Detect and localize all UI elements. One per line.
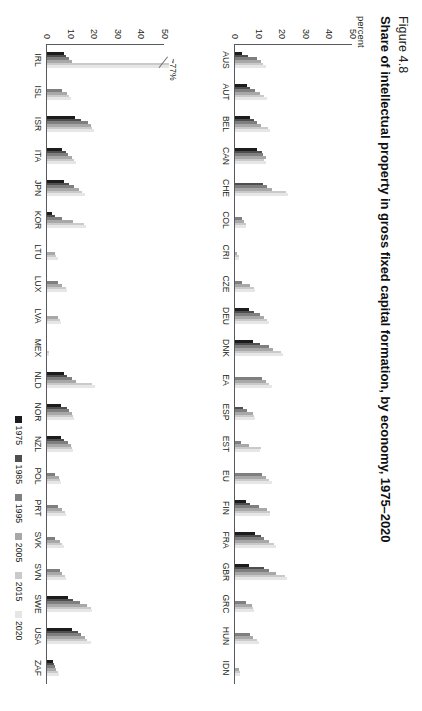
bar-group (235, 204, 353, 236)
bar-2020 (47, 225, 86, 228)
bar-2020 (235, 161, 266, 164)
bar-group (47, 140, 165, 172)
y-axis-tick-label: 20 (89, 17, 99, 39)
bar-2020 (235, 353, 283, 356)
bar-2020 (235, 609, 254, 612)
x-axis-category-label: CAN (221, 140, 231, 172)
x-axis-category-label: SWE (33, 588, 43, 620)
legend-item: 2020 (14, 611, 24, 640)
bar-group (235, 588, 353, 620)
plot-area: 01020304050 (46, 44, 164, 684)
bar-2020 (235, 545, 276, 548)
bar-group (235, 364, 353, 396)
legend-swatch-2015 (16, 572, 23, 579)
x-axis-category-label: EA (221, 364, 231, 396)
bar-2020 (235, 289, 255, 292)
x-axis-category-label: NZL (33, 428, 43, 460)
legend-label: 1975 (14, 426, 24, 446)
legend-swatch-1995 (16, 494, 23, 501)
x-axis-category-label: CZE (221, 268, 231, 300)
x-axis-category-label: HUN (221, 620, 231, 652)
bar-group (235, 268, 353, 300)
y-axis-tick-label: 30 (113, 17, 123, 39)
bar-group (47, 492, 165, 524)
y-axis-tick-label: 10 (254, 17, 264, 39)
x-axis-category-label: PRT (33, 492, 43, 524)
bar-2020 (235, 673, 240, 676)
bar-2020 (47, 161, 77, 164)
x-axis-category-label: CRI (221, 236, 231, 268)
bar-2020 (235, 385, 272, 388)
legend-label: 2005 (14, 543, 24, 563)
bar-2020 (235, 193, 288, 196)
bar-2020 (47, 577, 66, 580)
bar-2020 (47, 129, 94, 132)
x-axis-category-label: GBR (221, 556, 231, 588)
x-axis-category-label: USA (33, 620, 43, 652)
bar-group (47, 332, 165, 364)
x-axis-category-label: COL (221, 204, 231, 236)
bar-2020 (47, 65, 169, 68)
bar-group (47, 524, 165, 556)
bar-2020 (235, 97, 267, 100)
bar-2020 (47, 417, 74, 420)
legend-swatch-1985 (16, 455, 23, 462)
bar-group (235, 652, 353, 684)
y-axis-tick-label: 10 (66, 17, 76, 39)
bar-group (47, 236, 165, 268)
bar-group (47, 364, 165, 396)
panel-bottom: 01020304050IRLISLISRITAJPNKORLTULUXLVAME… (30, 44, 164, 684)
legend-item: 1975 (14, 416, 24, 445)
y-axis-tick-label: 30 (301, 17, 311, 39)
bar-2020 (235, 65, 266, 68)
bar-2020 (235, 321, 269, 324)
bar-2020 (235, 225, 246, 228)
x-axis-category-label: JPN (33, 172, 43, 204)
bar-2020 (235, 257, 239, 260)
bar-2020 (47, 545, 64, 548)
x-axis-category-label: IRL (33, 44, 43, 76)
bar-2020 (235, 641, 259, 644)
panel-top: 01020304050AUSAUTBELCANCHECOLCRICZEDEUDN… (218, 44, 352, 684)
x-axis-category-label: SVK (33, 524, 43, 556)
x-axis-category-label: AUT (221, 76, 231, 108)
x-axis-category-label: DEU (221, 300, 231, 332)
bar-group (47, 556, 165, 588)
x-axis-category-label: POL (33, 460, 43, 492)
legend-swatch-2005 (16, 533, 23, 540)
legend-label: 1985 (14, 465, 24, 485)
bar-2020 (47, 513, 66, 516)
bar-2020 (235, 449, 260, 452)
bar-group (47, 428, 165, 460)
bar-group (47, 396, 165, 428)
x-axis-category-label: SVN (33, 556, 43, 588)
x-axis-category-label: ISL (33, 76, 43, 108)
bar-group (47, 268, 165, 300)
bar-group (47, 108, 165, 140)
y-axis-tick-label: 0 (230, 17, 240, 39)
bar-2020 (47, 289, 67, 292)
x-axis-category-label: GRC (221, 588, 231, 620)
bar-2020 (47, 257, 58, 260)
bar-group (235, 44, 353, 76)
x-axis-category-label: LUX (33, 268, 43, 300)
x-axis-category-label: CHE (221, 172, 231, 204)
legend-item: 1995 (14, 494, 24, 523)
y-axis-tick-label: 50 (348, 17, 358, 39)
x-axis-category-label: DNK (221, 332, 231, 364)
legend-label: 1995 (14, 504, 24, 524)
annotation-clipped-value: ~77% (168, 58, 178, 80)
plot-area: 01020304050 (234, 44, 352, 684)
x-axis-category-label: NOR (33, 396, 43, 428)
x-axis-category-label: NLD (33, 364, 43, 396)
y-axis-tick-label: 40 (136, 17, 146, 39)
bar-2020 (47, 481, 61, 484)
bar-group (47, 76, 165, 108)
bar-group (47, 204, 165, 236)
legend-item: 2005 (14, 533, 24, 562)
figure-page: Figure 4.8 Share of intellectual propert… (0, 0, 422, 711)
y-axis-tick-label: 40 (324, 17, 334, 39)
legend-label: 2020 (14, 621, 24, 641)
x-axis-category-label: LTU (33, 236, 43, 268)
bar-2020 (47, 449, 73, 452)
